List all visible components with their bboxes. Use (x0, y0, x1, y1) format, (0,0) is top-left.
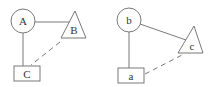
label-b: b (126, 14, 132, 26)
label-C: C (23, 68, 30, 80)
right-diagram: b c a (117, 8, 203, 83)
label-a: a (129, 70, 134, 82)
label-A: A (19, 15, 27, 27)
edge-B-C-dashed (31, 42, 60, 65)
edge-b-c (140, 24, 186, 40)
label-B: B (70, 24, 77, 36)
diagram-canvas: A B C b c a (0, 0, 210, 87)
label-c: c (190, 40, 195, 52)
left-diagram: A B C (11, 9, 86, 81)
edge-c-a-dashed (145, 54, 184, 74)
